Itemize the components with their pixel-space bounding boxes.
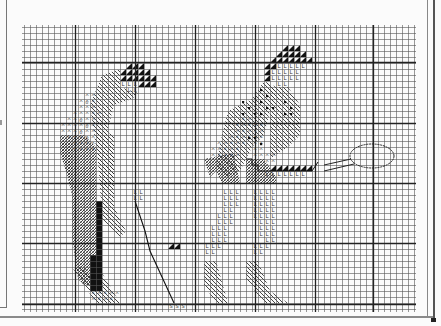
svg-text:^: ^ [223, 153, 227, 159]
svg-text:L: L [211, 249, 215, 255]
svg-text:L: L [277, 81, 281, 87]
svg-text:^: ^ [259, 153, 263, 159]
svg-text:L: L [139, 195, 143, 201]
svg-text:^: ^ [85, 147, 89, 153]
svg-text:L: L [259, 231, 263, 237]
svg-text:o: o [86, 124, 89, 129]
svg-text:^: ^ [265, 159, 269, 165]
svg-text:^: ^ [103, 297, 107, 303]
svg-text:^: ^ [67, 135, 71, 141]
svg-text:L: L [295, 75, 299, 81]
svg-text:^: ^ [73, 147, 77, 153]
svg-text:L: L [253, 249, 257, 255]
svg-text:L: L [121, 81, 125, 87]
svg-text:L: L [229, 219, 233, 225]
svg-text:L: L [259, 249, 263, 255]
svg-text:S: S [169, 303, 172, 309]
svg-text:L: L [223, 237, 227, 243]
svg-text:^: ^ [91, 147, 95, 153]
svg-text:^: ^ [271, 159, 275, 165]
svg-text:^: ^ [115, 291, 119, 297]
svg-text:^: ^ [217, 153, 221, 159]
svg-text:^: ^ [97, 297, 101, 303]
svg-text:L: L [271, 237, 275, 243]
svg-text:o: o [86, 136, 89, 141]
cross-stitch-chart: LLLLL^^^^^^^^^^^^^^^^^^^^^^^^^^^^^^^^^^^… [0, 0, 441, 326]
svg-text:L: L [301, 63, 305, 69]
svg-text:^: ^ [61, 129, 65, 135]
svg-text:L: L [235, 201, 239, 207]
svg-text:L: L [295, 171, 299, 177]
svg-text:o: o [86, 100, 89, 105]
svg-text:^: ^ [109, 297, 113, 303]
svg-text:L: L [133, 195, 137, 201]
svg-text:o: o [80, 118, 83, 123]
svg-text:L: L [289, 171, 293, 177]
svg-text:^: ^ [97, 111, 101, 117]
svg-text:^: ^ [79, 147, 83, 153]
chart-page: LLLLL^^^^^^^^^^^^^^^^^^^^^^^^^^^^^^^^^^^… [0, 0, 441, 326]
svg-text:L: L [133, 87, 137, 93]
svg-text:^: ^ [91, 297, 95, 303]
svg-text:L: L [283, 81, 287, 87]
svg-text:o: o [80, 130, 83, 135]
svg-text:L: L [301, 171, 305, 177]
svg-text:L: L [271, 75, 275, 81]
svg-text:^: ^ [253, 153, 257, 159]
svg-text:^: ^ [241, 141, 245, 147]
svg-text:L: L [205, 249, 209, 255]
svg-text:S: S [181, 303, 184, 309]
svg-text:L: L [289, 75, 293, 81]
svg-text:L: L [253, 213, 257, 219]
svg-text:L: L [277, 171, 281, 177]
svg-text:^: ^ [235, 153, 239, 159]
svg-text:L: L [283, 171, 287, 177]
svg-text:S: S [175, 303, 178, 309]
svg-text:^: ^ [211, 153, 215, 159]
svg-text:^: ^ [229, 153, 233, 159]
